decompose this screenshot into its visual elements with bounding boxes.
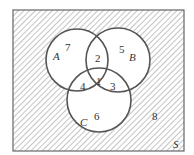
set-label-c: C xyxy=(80,116,88,128)
region-label-4: 4 xyxy=(80,80,86,92)
set-label-a: A xyxy=(52,50,60,62)
region-label-3: 3 xyxy=(110,80,116,92)
venn-diagram: A B C 7 2 5 4 1 3 6 8 S xyxy=(0,0,194,155)
region-label-5: 5 xyxy=(119,43,125,55)
region-label-2: 2 xyxy=(95,52,101,64)
universe-label-s: S xyxy=(173,138,179,150)
region-label-1: 1 xyxy=(96,75,102,87)
set-label-b: B xyxy=(129,51,136,63)
region-label-7: 7 xyxy=(65,41,71,53)
region-label-8: 8 xyxy=(152,110,158,122)
region-label-6: 6 xyxy=(94,110,100,122)
